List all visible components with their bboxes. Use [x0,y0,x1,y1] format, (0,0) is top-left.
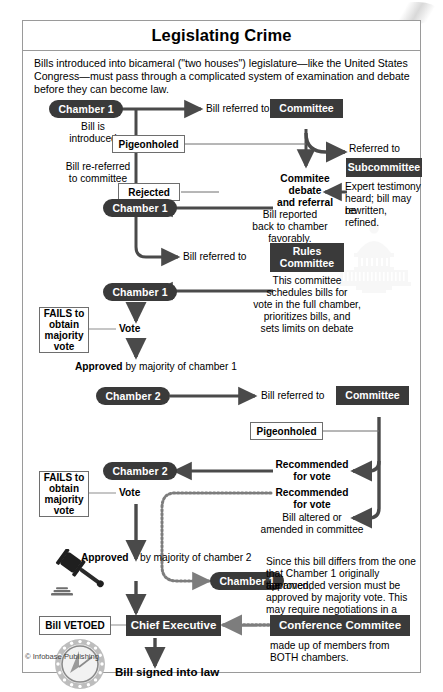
label-bill-referred-to-3: Bill referred to [261,390,324,402]
rules-committee-line2: Committee [280,258,334,270]
label-bill-signed-into-law: Bill signed into law [115,666,219,678]
node-chamber-1-b[interactable]: Chamber 1 [103,199,177,217]
node-committee-1[interactable]: Committee [270,99,343,118]
label-conference-made-line1: made up of members from [270,640,389,652]
label-recommended-1-line1: Recommended [271,459,353,471]
label-committee-debate-line2: debate [266,185,344,197]
label-rules-desc-line3: vote in the full chamber, [234,299,380,311]
node-rules-committee[interactable]: Rules Committee [270,243,344,272]
label-committee-debate-line1: Commitee [266,173,344,185]
approved-1-rest: by majority of chamber 1 [123,361,237,372]
diagram-canvas: Chamber 1 Bill is introduced Bill re-ref… [23,21,422,674]
label-conference-desc-line1: Since this bill differs from the one [266,556,416,568]
approved-1-bold: Approved [75,361,123,372]
fails-2-line2: obtain [49,483,79,494]
node-chamber-2-a[interactable]: Chamber 2 [96,387,170,405]
fails-1-line3: majority [45,330,84,341]
node-chamber-1-c[interactable]: Chamber 1 [103,283,177,301]
label-recommended-1-line2: for vote [271,471,353,483]
node-chamber-1-a[interactable]: Chamber 1 [49,100,123,118]
infographic-stage: Legislating Crime Bills introduced into … [0,0,443,692]
label-rules-desc-line1: This committee [242,275,372,287]
label-bill-re-referred-line1: Bill re-referred [48,161,148,173]
fails-1-line1: FAILS to [44,308,85,319]
fails-1-line4: vote [54,341,75,352]
label-approved-2-bold: Approved [81,552,129,564]
node-chief-executive[interactable]: Chief Executive [126,615,221,636]
box-fails-majority-2[interactable]: FAILS to obtain majority vote [39,471,89,517]
label-bill-reported-line1: Bill reported [236,209,344,221]
label-bill-altered-line1: Bill altered or [252,512,372,524]
fails-2-line3: majority [45,494,84,505]
label-approved-2-rest: by majority of chamber 2 [140,552,252,564]
label-expert-testimony-line3: rewritten, refined. [345,205,422,229]
label-rules-desc-line5: sets limits on debate [242,323,372,335]
fails-1-line2: obtain [49,319,79,330]
node-conference-committee[interactable]: Conference Commitee [270,615,410,636]
box-pigeonholed-1[interactable]: Pigeonholed [112,135,185,153]
credit-line: © Infobase Publishing [25,652,99,661]
label-bill-reported-line2: back to chamber [236,221,344,233]
rules-committee-line1: Rules [293,246,322,258]
box-fails-majority-1[interactable]: FAILS to obtain majority vote [39,307,89,353]
label-conference-desc-line3: the amended version must be [266,580,400,592]
label-recommended-2-line2: for vote [271,499,353,511]
label-bill-referred-to-2: Bill referred to [183,251,246,263]
label-bill-is-introduced-line1: Bill is [63,121,123,133]
node-subcommittee[interactable]: Subcommittee [346,158,422,177]
label-bill-referred-to-1: Bill referred to [206,103,269,115]
label-rules-desc-line4: prioritizes bills, and [242,311,372,323]
label-recommended-2-line1: Recommended [271,487,353,499]
presidential-seal-icon [53,637,107,691]
poster-frame: Legislating Crime Bills introduced into … [22,20,421,673]
label-conference-desc-line4: approved by majority vote. This [266,592,407,604]
label-committee-debate-line3: and referral [266,197,344,209]
box-bill-vetoed[interactable]: Bill VETOED [39,616,111,635]
node-chamber-2-b[interactable]: Chamber 2 [103,462,177,480]
label-bill-altered-line2: amended in committee [231,524,393,536]
label-expert-testimony-line1: Expert testimony [345,181,421,193]
fails-2-line4: vote [54,505,75,516]
label-conference-made-line2: BOTH chambers. [270,652,349,664]
box-pigeonholed-2[interactable]: Pigeonholed [250,422,323,440]
label-referred-to: Referred to [349,143,400,155]
label-rules-desc-line2: schedules bills for [242,287,372,299]
fails-2-line1: FAILS to [44,472,85,483]
label-approved-1: Approved by majority of chamber 1 [75,361,237,373]
label-vote-2: Vote [119,487,140,499]
node-committee-2[interactable]: Committee [336,386,409,405]
label-vote-1: Vote [119,323,140,335]
